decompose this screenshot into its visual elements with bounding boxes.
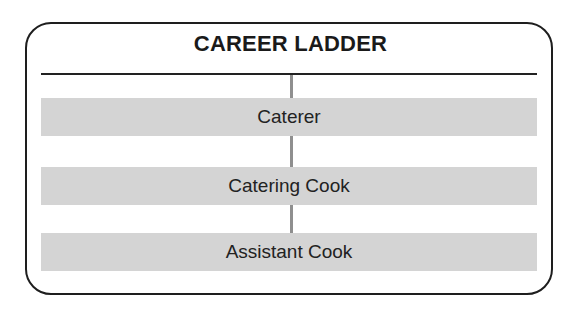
- ladder-step-catering-cook: Catering Cook: [41, 167, 537, 205]
- ladder-step-label: Assistant Cook: [226, 241, 353, 263]
- ladder-connector: [290, 75, 293, 98]
- ladder-step-caterer: Caterer: [41, 98, 537, 136]
- ladder-connector: [290, 136, 293, 167]
- ladder-step-assistant-cook: Assistant Cook: [41, 233, 537, 271]
- diagram-title: CAREER LADDER: [0, 31, 581, 57]
- ladder-step-label: Catering Cook: [228, 175, 349, 197]
- ladder-step-label: Caterer: [257, 106, 320, 128]
- title-divider: [41, 73, 537, 75]
- ladder-connector: [290, 205, 293, 233]
